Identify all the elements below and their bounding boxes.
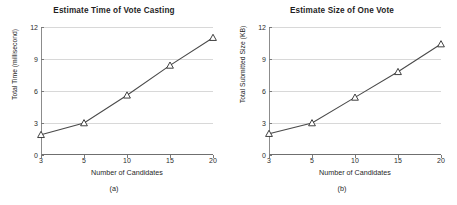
y-axis-ticks-a: 036912 — [8, 27, 38, 155]
x-tick-label: 15 — [386, 157, 410, 164]
chart-panel-b: Estimate Size of One Vote Total Submitte… — [228, 0, 456, 205]
y-tick-label: 9 — [238, 56, 266, 63]
x-tick-label: 10 — [343, 157, 367, 164]
x-tick-label: 15 — [158, 157, 182, 164]
series-layer-a — [41, 27, 213, 155]
y-tick-label: 12 — [10, 24, 38, 31]
y-tick-mark — [41, 59, 44, 60]
y-tick-mark — [269, 27, 272, 28]
data-point-marker — [438, 41, 445, 47]
y-tick-mark — [41, 91, 44, 92]
x-tick-mark — [441, 155, 442, 158]
x-axis-label-a: Number of Candidates — [41, 168, 213, 177]
figure-sheet: Estimate Time of Vote Casting Total Time… — [0, 0, 457, 205]
y-tick-label: 9 — [10, 56, 38, 63]
series-layer-b — [269, 27, 441, 155]
x-tick-label: 3 — [257, 157, 281, 164]
y-tick-mark — [269, 59, 272, 60]
y-tick-mark — [41, 123, 44, 124]
x-tick-mark — [127, 155, 128, 158]
x-tick-mark — [398, 155, 399, 158]
x-tick-mark — [312, 155, 313, 158]
x-tick-mark — [170, 155, 171, 158]
data-point-marker — [124, 92, 131, 98]
plot-area-b — [269, 27, 441, 155]
panel-caption-a: (a) — [0, 184, 228, 193]
x-tick-label: 10 — [115, 157, 139, 164]
data-point-marker — [210, 34, 217, 40]
data-point-marker — [81, 120, 88, 126]
x-tick-mark — [355, 155, 356, 158]
chart-title-a: Estimate Time of Vote Casting — [0, 6, 228, 15]
y-tick-label: 6 — [10, 88, 38, 95]
series-line — [269, 44, 441, 134]
x-tick-label: 20 — [429, 157, 453, 164]
x-tick-label: 3 — [29, 157, 53, 164]
x-tick-label: 20 — [201, 157, 225, 164]
x-tick-label: 5 — [300, 157, 324, 164]
data-point-marker — [395, 68, 402, 74]
x-tick-mark — [213, 155, 214, 158]
y-tick-mark — [269, 123, 272, 124]
data-point-marker — [352, 94, 359, 100]
y-tick-mark — [269, 91, 272, 92]
x-tick-label: 5 — [72, 157, 96, 164]
x-axis-label-b: Number of Candidates — [269, 168, 441, 177]
chart-panel-a: Estimate Time of Vote Casting Total Time… — [0, 0, 228, 205]
x-tick-mark — [269, 155, 270, 158]
plot-area-a — [41, 27, 213, 155]
x-tick-mark — [41, 155, 42, 158]
y-tick-mark — [41, 27, 44, 28]
panel-caption-b: (b) — [228, 184, 456, 193]
y-axis-ticks-b: 036912 — [236, 27, 266, 155]
y-tick-label: 3 — [10, 120, 38, 127]
x-tick-mark — [84, 155, 85, 158]
series-line — [41, 38, 213, 135]
y-tick-label: 12 — [238, 24, 266, 31]
y-tick-label: 6 — [238, 88, 266, 95]
y-tick-label: 3 — [238, 120, 266, 127]
data-point-marker — [167, 62, 174, 68]
chart-title-b: Estimate Size of One Vote — [228, 6, 456, 15]
data-point-marker — [309, 120, 316, 126]
